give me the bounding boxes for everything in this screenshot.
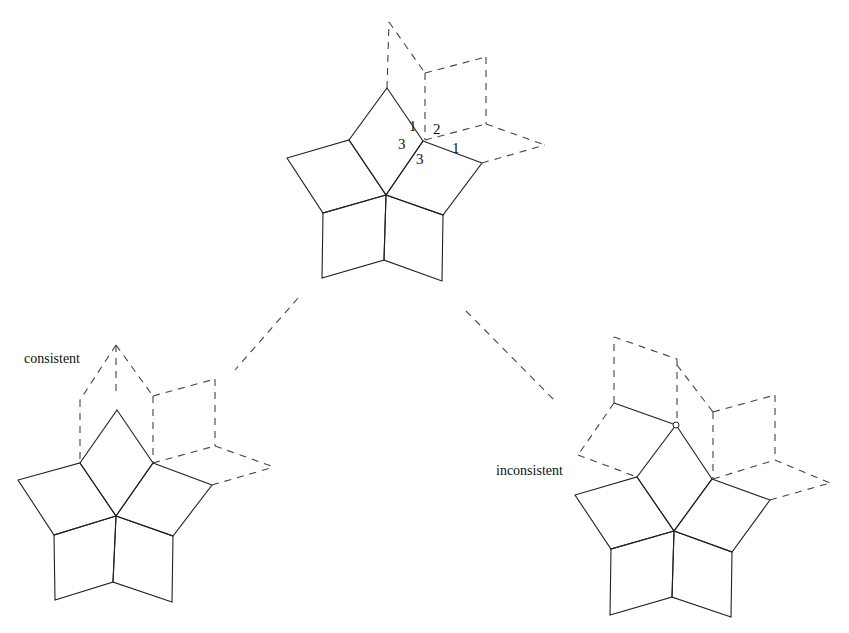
- left-star: consistent: [18, 345, 274, 602]
- top-star-dashed-extension: [387, 22, 545, 163]
- branch-connector-left: [235, 298, 298, 370]
- top-star-solid-rhombi: [287, 88, 482, 281]
- right-star-solid-rhombi: [575, 403, 770, 617]
- angle-label: 1: [409, 118, 417, 134]
- caption-consistent: consistent: [24, 351, 80, 366]
- caption-inconsistent: inconsistent: [496, 463, 563, 478]
- right-star-dashed-extension: [578, 337, 830, 500]
- right-star: inconsistent: [496, 337, 830, 617]
- branch-connector-right: [466, 311, 554, 400]
- angle-label: 3: [416, 151, 424, 167]
- left-star-solid-rhombi: [18, 410, 212, 602]
- left-star-dashed-extension: [80, 345, 274, 485]
- angle-label: 1: [452, 140, 460, 156]
- angle-label: 2: [433, 121, 441, 137]
- diagram-canvas: 1 2 3 1 3 consistent: [0, 0, 849, 633]
- angle-label: 3: [398, 136, 406, 152]
- conflict-vertex-marker: [673, 422, 679, 428]
- top-star-angle-labels: 1 2 3 1 3: [398, 118, 460, 167]
- top-star: 1 2 3 1 3: [287, 22, 545, 281]
